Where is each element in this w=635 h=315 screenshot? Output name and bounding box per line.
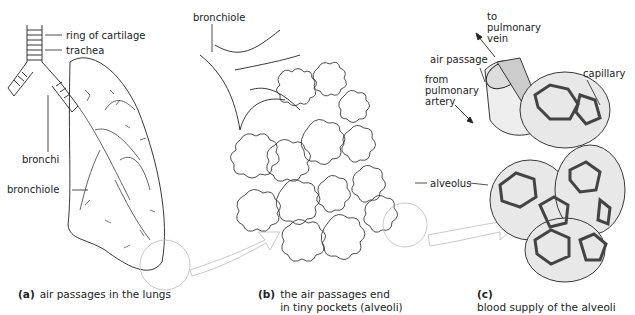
lung-illustration [68,58,165,270]
label-ring-of-cartilage: ring of cartilage [66,30,145,41]
caption-b-line1: the air passages end [280,288,390,300]
label-to: to [487,11,497,22]
label-bronchiole-b: bronchiole [193,12,245,23]
caption-c: (c)blood supply of the alveoli [477,288,635,314]
label-pulmonary-artery-1: pulmonary [425,85,479,96]
label-alveolus: alveolus [430,178,471,189]
label-bronchi: bronchi [22,154,59,165]
caption-a: (a)air passages in the lungs [18,288,171,301]
arrow-a-to-b [190,232,280,276]
caption-c-letter: (c) [477,288,493,300]
bronchiole-tree [200,30,300,130]
zoom-circle-b [383,203,427,247]
label-trachea: trachea [66,45,104,56]
caption-a-letter: (a) [18,288,35,300]
label-air-passage: air passage [430,54,488,65]
caption-b: (b)the air passages endin tiny pockets (… [258,288,403,314]
caption-c-text: blood supply of the alveoli [477,301,616,314]
caption-b-line2: in tiny pockets (alveoli) [280,301,403,313]
alveoli-clusters [230,62,397,261]
label-artery: artery [425,96,455,107]
label-capillary: capillary [583,68,625,79]
caption-a-text: air passages in the lungs [40,288,171,301]
label-vein: vein [487,33,508,44]
label-bronchiole-a: bronchiole [7,184,59,195]
caption-b-letter: (b) [258,288,275,300]
alveoli-capillary-illustration [481,56,625,282]
zoom-circle-a [140,240,190,290]
label-from: from [425,74,448,85]
label-pulmonary-vein-1: pulmonary [487,22,541,33]
